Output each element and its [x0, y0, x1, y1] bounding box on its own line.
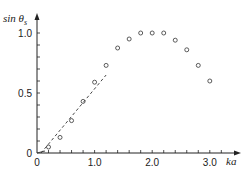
y-tick-label: 0 [26, 148, 32, 159]
data-point [116, 46, 120, 50]
data-point [208, 79, 212, 83]
x-tick-label: 3.0 [203, 157, 217, 168]
data-point [58, 135, 62, 139]
y-axis-label-main: sin θ [3, 12, 25, 24]
data-point [185, 48, 189, 52]
tick-labels: 01.02.03.000.51.0 [18, 28, 217, 168]
y-tick-label: 1.0 [18, 28, 32, 39]
chart: 01.02.03.000.51.0 sin θs ka [0, 0, 251, 176]
x-tick-label: 2.0 [145, 157, 159, 168]
series [37, 31, 212, 153]
y-tick-label: 0.5 [18, 88, 32, 99]
data-point [104, 63, 108, 67]
data-point [70, 119, 74, 123]
data-point [139, 31, 143, 35]
x-tick-label: 0 [34, 157, 40, 168]
y-axis-label-sub: s [24, 18, 27, 27]
data-point [93, 80, 97, 84]
data-point [150, 31, 154, 35]
data-point [162, 31, 166, 35]
x-axis-label: ka [226, 155, 237, 167]
ticks [37, 33, 221, 153]
axes [35, 13, 242, 156]
data-point [47, 145, 51, 149]
y-axis-label: sin θs [3, 12, 27, 27]
y-axis-arrow [35, 13, 40, 20]
data-point [127, 37, 131, 41]
data-point [196, 63, 200, 67]
data-point [173, 38, 177, 42]
fit-line [41, 75, 106, 153]
x-tick-label: 1.0 [88, 157, 102, 168]
